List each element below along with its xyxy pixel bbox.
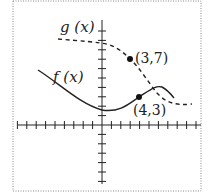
point-4-3	[136, 94, 142, 100]
f-label: f (x)	[52, 68, 84, 86]
g-label: g (x)	[60, 18, 95, 36]
point-3-7	[127, 56, 133, 62]
function-graph: g (x) f (x) (3,7) (4,3)	[0, 0, 212, 192]
chart-frame: g (x) f (x) (3,7) (4,3)	[0, 0, 212, 192]
axes	[18, 20, 201, 184]
point-label-3-7: (3,7)	[135, 50, 168, 66]
point-label-4-3: (4,3)	[133, 102, 166, 118]
